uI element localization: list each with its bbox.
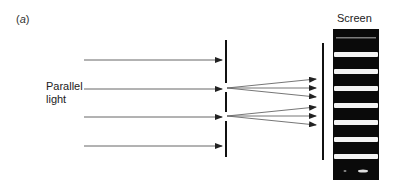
fringe-speckle bbox=[358, 170, 368, 173]
bright-fringe bbox=[334, 52, 378, 57]
incoming-rays bbox=[84, 60, 222, 146]
diffracted-ray-arrow bbox=[227, 116, 316, 125]
diffracted-rays bbox=[227, 79, 316, 125]
fringe-speckle bbox=[344, 170, 347, 172]
diffracted-ray-arrow bbox=[227, 79, 316, 88]
interference-fringe-image bbox=[333, 29, 379, 180]
bright-fringe bbox=[334, 137, 378, 142]
diffracted-ray-arrow bbox=[227, 107, 316, 116]
diffracted-ray-arrow bbox=[227, 88, 316, 97]
bright-fringe bbox=[334, 103, 378, 108]
bright-fringe bbox=[334, 120, 378, 125]
bright-fringe bbox=[334, 69, 378, 74]
bright-fringe bbox=[334, 86, 378, 91]
bright-fringe bbox=[334, 154, 378, 159]
faint-fringe bbox=[336, 37, 376, 39]
double-slit-diagram bbox=[0, 0, 398, 189]
